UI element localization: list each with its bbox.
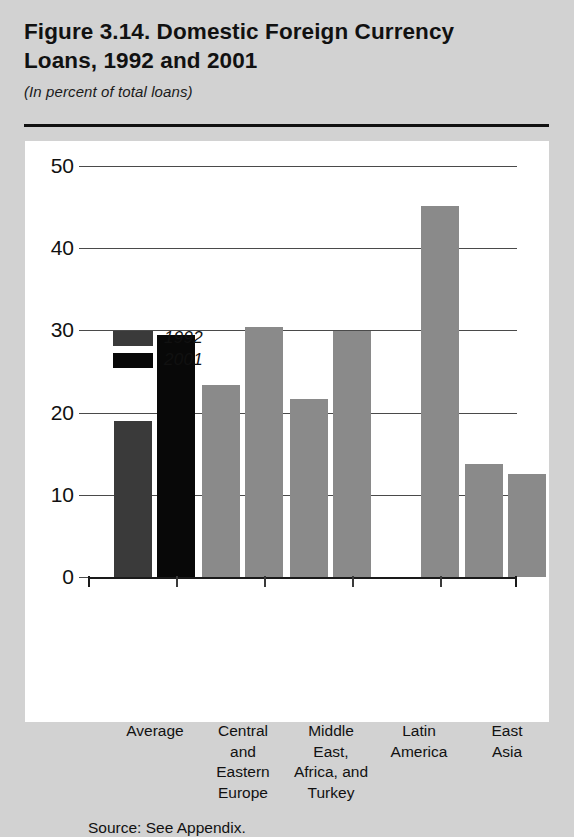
category-label-2-line-2: Africa, and [271,762,391,783]
category-label-4: EastAsia [447,721,567,762]
ytick-mark-30 [79,330,88,331]
bar-cee-2001 [245,327,283,577]
xaxis-tick-1 [176,576,178,587]
ytick-mark-50 [79,166,88,167]
ytick-mark-0 [79,577,88,578]
xaxis-tick-0 [88,576,90,587]
legend-label-1992: 1992 [164,328,203,348]
ytick-label-40: 40 [51,236,74,260]
legend-label-2001: 2001 [164,350,203,370]
ytick-label-20: 20 [51,401,74,425]
chart-legend: 19922001 [113,328,203,372]
source-note: Source: See Appendix. [88,819,246,837]
bar-meat-1992 [290,399,328,577]
category-label-4-line-0: East [447,721,567,742]
bar-eastasia-2001 [508,474,546,577]
figure-title-line-2: Loans, 1992 and 2001 [24,47,548,76]
xaxis-tick-2 [264,576,266,587]
header-divider [24,124,549,127]
legend-row-2001: 2001 [113,350,203,370]
ytick-label-0: 0 [62,565,74,589]
chart-panel: 01020304050 19922001 AverageCentralandEa… [25,141,549,722]
page-title: Figure 3.14. Domestic Foreign Currency L… [24,18,548,76]
figure-title-line-1: Figure 3.14. Domestic Foreign Currency [24,18,548,47]
category-label-2-line-3: Turkey [271,783,391,804]
ytick-label-50: 50 [51,154,74,178]
bar-latinamerica-2001 [421,206,459,577]
xaxis-tick-3 [352,576,354,587]
figure-header: Figure 3.14. Domestic Foreign Currency L… [24,18,548,100]
bar-meat-2001 [333,331,371,577]
figure-subtitle: (In percent of total loans) [24,83,548,100]
ytick-label-30: 30 [51,318,74,342]
ytick-label-10: 10 [51,483,74,507]
gridline-50 [88,166,517,167]
bar-average-1992 [114,421,152,577]
legend-row-1992: 1992 [113,328,203,348]
gridline-0 [88,577,517,579]
xaxis-tick-5 [515,576,517,587]
xaxis-tick-4 [440,576,442,587]
bar-eastasia-1992 [465,464,503,577]
ytick-mark-10 [79,495,88,496]
legend-swatch-2001 [113,353,153,368]
legend-swatch-1992 [113,331,153,346]
bar-cee-1992 [202,385,240,577]
ytick-mark-20 [79,413,88,414]
ytick-mark-40 [79,248,88,249]
category-label-4-line-1: Asia [447,742,567,763]
